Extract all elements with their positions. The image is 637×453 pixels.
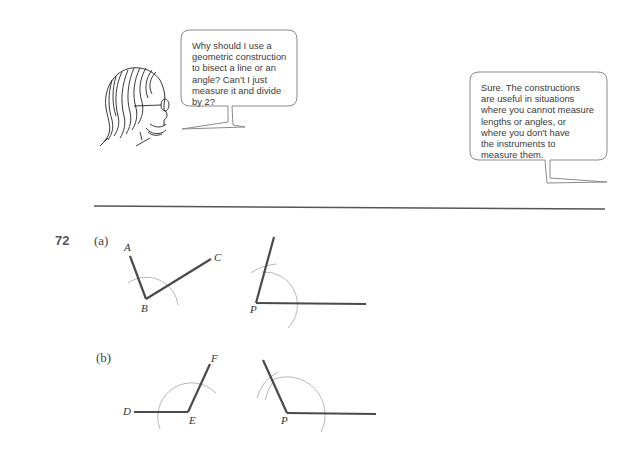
angle-copy-b	[257, 360, 376, 432]
point-p-label-a: P	[250, 303, 257, 315]
textbook-page: Why should I use a geometric constructio…	[0, 0, 637, 453]
point-e-label: E	[189, 414, 196, 426]
part-a-label: (a)	[94, 233, 108, 249]
point-a-label: A	[124, 241, 131, 253]
answer-text: Sure. The constructions are useful in si…	[481, 82, 605, 160]
angle-abc	[128, 256, 211, 305]
point-f-label: F	[211, 352, 218, 364]
angle-copy-a	[251, 237, 366, 328]
angle-def	[134, 364, 216, 429]
point-c-label: C	[214, 251, 221, 263]
man-illustration-icon	[100, 68, 169, 146]
section-divider	[94, 206, 605, 209]
point-b-label: B	[141, 302, 148, 314]
point-p-label-b: P	[281, 414, 288, 426]
illustrations	[0, 0, 637, 453]
point-d-label: D	[123, 405, 131, 417]
part-b-label: (b)	[96, 350, 111, 366]
problem-number: 72	[55, 233, 69, 248]
question-text: Why should I use a geometric constructio…	[192, 40, 296, 107]
